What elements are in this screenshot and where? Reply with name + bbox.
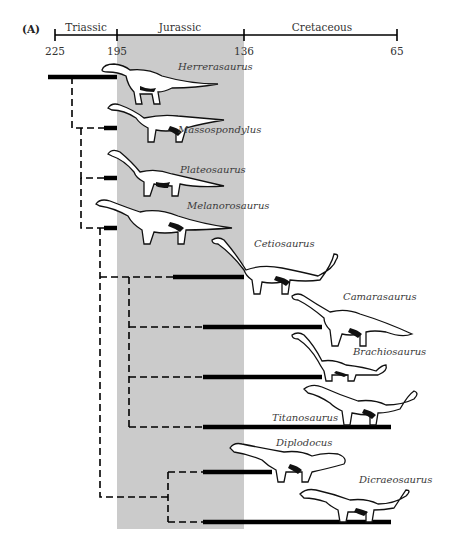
- tick-195: 195: [107, 45, 127, 57]
- panel-label: (A): [22, 23, 40, 35]
- tick-65: 65: [390, 45, 403, 57]
- period-triassic: Triassic: [65, 21, 107, 33]
- label-dicraeosaurus: Dicraeosaurus: [358, 474, 432, 485]
- tick-225: 225: [45, 45, 65, 57]
- tick-136: 136: [234, 45, 254, 57]
- jurassic-shade: [117, 35, 244, 529]
- label-brachiosaurus: Brachiosaurus: [352, 346, 426, 357]
- label-camarasaurus: Camarasaurus: [343, 291, 417, 302]
- label-massospondylus: Massospondylus: [177, 124, 261, 135]
- label-cetiosaurus: Cetiosaurus: [254, 238, 315, 249]
- label-melanorosaurus: Melanorosaurus: [186, 200, 269, 211]
- period-jurassic: Jurassic: [158, 21, 201, 33]
- label-diplodocus: Diplodocus: [275, 437, 332, 448]
- period-cretaceous: Cretaceous: [292, 21, 352, 33]
- phylogeny-diagram: (A) Triassic Jurassic Cretaceous 225 195…: [0, 0, 449, 542]
- label-plateosaurus: Plateosaurus: [179, 164, 246, 175]
- label-titanosaurus: Titanosaurus: [272, 412, 338, 423]
- dicraeosaurus-illustration: [300, 490, 409, 523]
- label-herrerasaurus: Herrerasaurus: [177, 61, 253, 72]
- diplodocus-illustration: [230, 444, 345, 483]
